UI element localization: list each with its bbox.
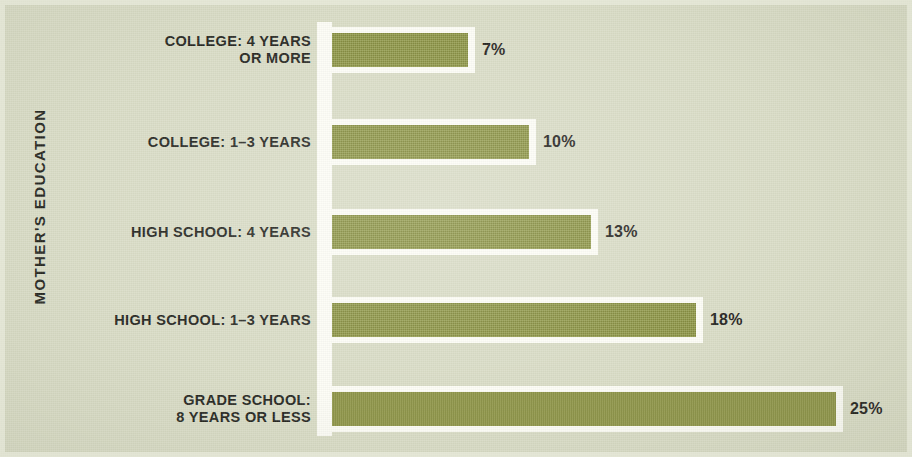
category-label: COLLEGE: 1–3 YEARS xyxy=(51,134,311,151)
bar-shape xyxy=(332,33,468,67)
bar-shape xyxy=(332,215,591,249)
bar-rows: COLLEGE: 4 YEARS OR MORE 7% COLLEGE: 1–3… xyxy=(0,0,912,457)
bar-shape xyxy=(332,125,529,159)
bar-row: COLLEGE: 1–3 YEARS 10% xyxy=(0,119,912,165)
category-label: HIGH SCHOOL: 1–3 YEARS xyxy=(51,312,311,329)
bar-row: COLLEGE: 4 YEARS OR MORE 7% xyxy=(0,27,912,73)
category-label: COLLEGE: 4 YEARS OR MORE xyxy=(51,33,311,67)
bar-value-label: 25% xyxy=(850,400,883,418)
bar-outline xyxy=(325,27,475,73)
bar-outline xyxy=(325,386,843,432)
bar-shape xyxy=(332,303,696,337)
category-label: HIGH SCHOOL: 4 YEARS xyxy=(51,224,311,241)
bar-outline xyxy=(325,119,536,165)
bar-chart-figure: MOTHER'S EDUCATION COLLEGE: 4 YEARS OR M… xyxy=(0,0,912,457)
bar-value-label: 13% xyxy=(605,223,638,241)
bar-row: HIGH SCHOOL: 1–3 YEARS 18% xyxy=(0,297,912,343)
category-label: GRADE SCHOOL: 8 YEARS OR LESS xyxy=(51,392,311,426)
bar-row: GRADE SCHOOL: 8 YEARS OR LESS 25% xyxy=(0,386,912,432)
bar-row: HIGH SCHOOL: 4 YEARS 13% xyxy=(0,209,912,255)
bar-value-label: 18% xyxy=(710,311,743,329)
bar-value-label: 7% xyxy=(482,41,506,59)
bar-shape xyxy=(332,392,836,426)
bar-outline xyxy=(325,297,703,343)
bar-value-label: 10% xyxy=(543,133,576,151)
bar-outline xyxy=(325,209,598,255)
